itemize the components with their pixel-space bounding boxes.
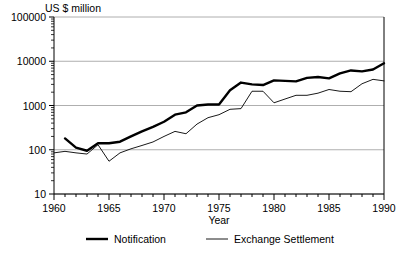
y-tick-label: 100000 xyxy=(11,11,46,23)
x-axis-label: Year xyxy=(208,214,230,226)
unit-label: US $ million xyxy=(45,2,101,14)
chart-background xyxy=(0,0,396,254)
y-tick-label: 10 xyxy=(34,188,46,200)
y-tick-label: 100 xyxy=(28,144,46,156)
x-tick-label: 1990 xyxy=(372,202,396,214)
x-tick-label: 1960 xyxy=(42,202,66,214)
chart-container: US $ million 10000010000100010010 196019… xyxy=(0,0,396,254)
x-tick-label: 1980 xyxy=(262,202,286,214)
x-tick-label: 1965 xyxy=(97,202,121,214)
x-tick-label: 1985 xyxy=(317,202,341,214)
x-tick-label: 1975 xyxy=(207,202,231,214)
x-tick-label: 1970 xyxy=(152,202,176,214)
legend-label-exchange-settlement: Exchange Settlement xyxy=(234,233,334,245)
y-tick-label: 1000 xyxy=(23,100,47,112)
legend-label-notification: Notification xyxy=(114,233,166,245)
y-tick-label: 10000 xyxy=(17,55,46,67)
line-chart: US $ million 10000010000100010010 196019… xyxy=(0,0,396,254)
